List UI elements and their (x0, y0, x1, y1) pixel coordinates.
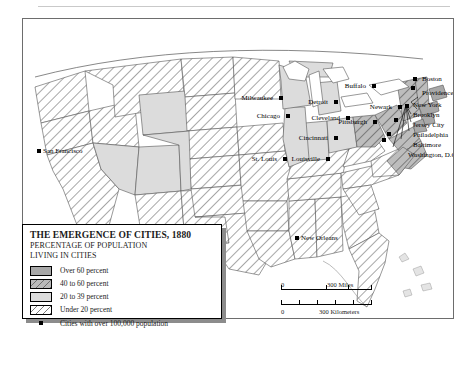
legend-item-under-20: Under 20 percent (30, 303, 214, 316)
city-label: Cincinnati (299, 134, 328, 142)
legend-subtitle-line2: LIVING IN CITIES (30, 251, 214, 261)
scale-bar: 0 300 Miles 0 300 Kilometers (281, 281, 401, 315)
city-label: Jersey City (413, 121, 444, 129)
scale-tick (281, 285, 282, 290)
city-label: San Francisco (43, 147, 82, 155)
scale-tick (281, 300, 282, 305)
city-dot-icon (37, 149, 41, 153)
city-label: Detroit (308, 98, 328, 106)
legend-item-over-60: Over 60 percent (30, 264, 214, 277)
legend-swatch-under-20 (30, 305, 52, 315)
legend-label-city-dot: Cities with over 100,000 population (60, 319, 168, 328)
city-label: Milwaukee (242, 94, 274, 102)
city-label: New York (413, 101, 441, 109)
legend-swatch-20-39 (30, 292, 52, 302)
city-label: New Orleans (301, 234, 338, 242)
city-dot-icon (372, 84, 376, 88)
scale-tick (317, 300, 318, 305)
legend-label-20-39: 20 to 39 percent (60, 292, 109, 301)
city-dot-icon (387, 132, 391, 136)
city-label: Baltimore (413, 141, 441, 149)
city-label: St. Louis (252, 155, 277, 163)
city-dot-icon (283, 157, 287, 161)
city-dot-icon (286, 114, 290, 118)
legend-subtitle-line1: PERCENTAGE OF POPULATION (30, 241, 214, 251)
scale-km-line (281, 304, 371, 305)
city-dot-icon (398, 105, 402, 109)
city-dot-icon (411, 86, 415, 90)
legend-item-40-60: 40 to 60 percent (30, 277, 214, 290)
legend-item-20-39: 20 to 39 percent (30, 290, 214, 303)
scale-tick (335, 300, 336, 305)
scale-miles-value: 300 Miles (327, 281, 353, 288)
city-label: Brooklyn (413, 111, 439, 119)
legend-swatch-40-60 (30, 279, 52, 289)
city-dot-icon (39, 321, 43, 325)
city-dot-icon (405, 104, 409, 108)
scale-tick (326, 285, 327, 290)
city-dot-icon (373, 120, 377, 124)
city-dot-icon (334, 100, 338, 104)
city-label: Cleveland (312, 114, 340, 122)
legend-label-under-20: Under 20 percent (60, 305, 112, 314)
legend-dot-wrap (30, 321, 52, 325)
city-label: Pittsburgh (338, 118, 367, 126)
scale-tick (371, 285, 372, 290)
scale-bar-miles: 0 300 Miles (281, 281, 401, 298)
scale-tick (353, 300, 354, 305)
scale-km-value: 300 Kilometers (319, 308, 359, 315)
city-label: Providence (422, 89, 454, 97)
top-rule (38, 6, 450, 7)
scale-bar-kilometers: 0 300 Kilometers (281, 298, 401, 315)
legend-label-over-60: Over 60 percent (60, 266, 108, 275)
city-label: Louisville (292, 155, 320, 163)
legend-item-city-dot: Cities with over 100,000 population (30, 316, 214, 330)
scale-km-zero: 0 (281, 308, 284, 315)
legend-box: THE EMERGENCE OF CITIES, 1880 PERCENTAGE… (22, 224, 222, 319)
city-label: Newark (370, 103, 392, 111)
scale-tick (371, 300, 372, 305)
city-label: Boston (422, 75, 442, 83)
city-dot-icon (295, 236, 299, 240)
legend-swatch-over-60 (30, 266, 52, 276)
legend-label-40-60: 40 to 60 percent (60, 279, 109, 288)
city-dot-icon (394, 118, 398, 122)
scale-tick (348, 285, 349, 290)
legend-items: Over 60 percent 40 to 60 percent 20 to 3… (30, 264, 214, 330)
city-label: Philadelphia (413, 131, 448, 139)
city-label: Washington, D.C. (408, 151, 454, 159)
city-dot-icon (279, 96, 283, 100)
city-dot-icon (413, 77, 417, 81)
city-dot-icon (334, 136, 338, 140)
city-dot-icon (326, 157, 330, 161)
city-dot-icon (382, 138, 386, 142)
city-label: Chicago (257, 112, 280, 120)
city-label: Buffalo (345, 82, 366, 90)
legend-title: THE EMERGENCE OF CITIES, 1880 (30, 230, 214, 241)
scale-tick (299, 300, 300, 305)
